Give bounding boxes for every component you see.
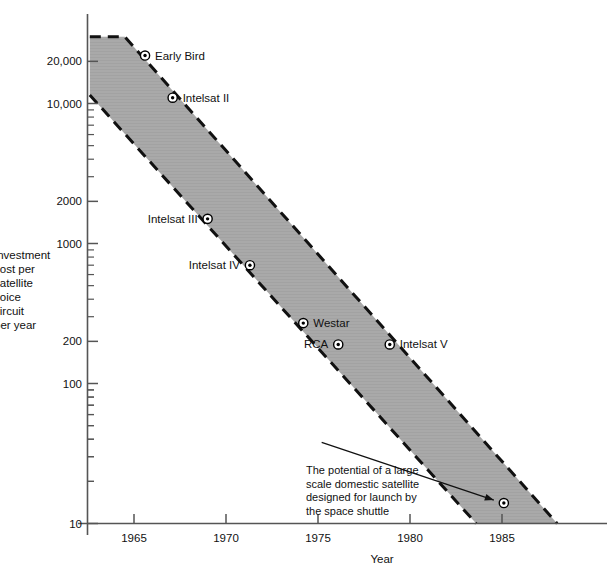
data-point-label: Intelsat II xyxy=(183,92,230,104)
y-tick-label: 100 xyxy=(63,378,82,390)
data-point-label: Intelsat III xyxy=(148,213,198,225)
y-tick-label: 200 xyxy=(63,335,82,347)
x-tick-label: 1965 xyxy=(121,532,147,544)
y-tick-label: 10,000 xyxy=(47,98,82,110)
data-point-label: Early Bird xyxy=(155,50,205,62)
data-point-label: Westar xyxy=(313,317,349,329)
x-axis-tick-labels: 19651970197519801985 xyxy=(121,532,515,544)
y-tick-label: 20,000 xyxy=(47,55,82,67)
data-point-center xyxy=(143,54,146,57)
data-point-label: Intelsat V xyxy=(400,338,448,350)
trend-band xyxy=(90,37,557,524)
annotation-text: The potential of a large scale domestic … xyxy=(306,464,496,518)
y-axis-title-line: cost per xyxy=(0,262,86,276)
y-axis-title-line: voice xyxy=(0,290,86,304)
y-axis-title-line: per year xyxy=(0,318,86,332)
data-point-center xyxy=(388,343,391,346)
data-point[interactable] xyxy=(499,498,508,507)
y-tick-label: 2000 xyxy=(56,195,82,207)
y-tick-label: 10 xyxy=(69,518,82,530)
y-axis-title-line: satellite xyxy=(0,276,86,290)
annotation-line: the space shuttle xyxy=(306,505,496,519)
annotation-line: designed for launch by xyxy=(306,491,496,505)
x-axis-title: Year xyxy=(370,553,393,565)
y-axis-minor-ticks xyxy=(88,110,95,481)
x-tick-label: 1975 xyxy=(305,532,331,544)
data-point[interactable]: Early Bird xyxy=(140,50,204,62)
data-point-center xyxy=(248,263,251,266)
data-point-center xyxy=(302,321,305,324)
chart-canvas: 101002001000200010,00020,000 19651970197… xyxy=(0,0,607,583)
data-point-label: Intelsat IV xyxy=(189,259,240,271)
data-point[interactable]: RCA xyxy=(304,338,343,350)
x-tick-label: 1985 xyxy=(489,532,515,544)
data-point-center xyxy=(206,217,209,220)
chart-figure: 101002001000200010,00020,000 19651970197… xyxy=(0,0,607,583)
y-axis-title: Investment cost per satellite voice circ… xyxy=(0,248,86,332)
annotation-line: The potential of a large xyxy=(306,464,496,478)
data-point-center xyxy=(502,501,505,504)
data-point[interactable]: Westar xyxy=(299,317,350,329)
y-axis-title-line: circuit xyxy=(0,304,86,318)
y-axis-ticks xyxy=(88,61,99,523)
y-axis-title-line: Investment xyxy=(0,248,86,262)
data-point-center xyxy=(171,96,174,99)
x-tick-label: 1980 xyxy=(397,532,423,544)
data-point-center xyxy=(337,343,340,346)
annotation-line: scale domestic satellite xyxy=(306,478,496,492)
x-tick-label: 1970 xyxy=(213,532,239,544)
data-point-label: RCA xyxy=(304,338,329,350)
